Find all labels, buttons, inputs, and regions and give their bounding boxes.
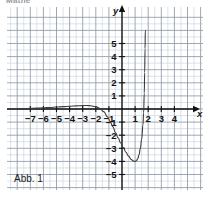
svg-text:−7: −7 [25,113,36,124]
svg-text:−2: −2 [90,113,101,124]
svg-text:1: 1 [111,90,117,101]
top-cut-text: Mathe [6,0,31,3]
svg-text:−5: −5 [106,169,118,180]
coordinate-plot: −7−6−5−4−3−2−1123454321−1−2−3−4−5 x y Ab… [0,0,210,199]
svg-text:−4: −4 [64,113,76,124]
axes [7,5,200,190]
svg-text:x: x [196,108,203,119]
svg-text:4: 4 [172,113,178,124]
svg-text:Abb. 1: Abb. 1 [14,173,43,184]
svg-text:1: 1 [132,113,138,124]
axis-label-y: y [112,5,119,16]
svg-text:−3: −3 [77,113,88,124]
svg-text:2: 2 [146,113,151,124]
figure-container: Mathe −7−6−5−4−3−2−1123454321−1−2−3−4−5 … [0,0,210,199]
svg-text:−5: −5 [51,113,63,124]
svg-text:−6: −6 [38,113,49,124]
svg-text:5: 5 [111,38,117,49]
bottom-cut-text: Abb. [96,197,114,199]
svg-text:−1: −1 [106,117,118,128]
svg-text:2: 2 [111,77,116,88]
figure-caption: Abb. 1 [14,173,43,184]
svg-text:3: 3 [111,64,116,75]
svg-text:−3: −3 [106,143,117,154]
svg-text:y: y [112,5,119,16]
axis-label-x: x [196,108,203,119]
svg-text:3: 3 [159,113,164,124]
svg-text:4: 4 [111,51,117,62]
svg-text:−4: −4 [106,156,118,167]
